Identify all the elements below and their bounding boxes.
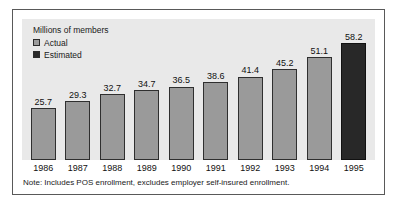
bar-group-1989: 34.7 [134,79,159,160]
bar-1993 [272,69,297,160]
bar-1990 [169,87,194,160]
x-tick-1989: 1989 [130,162,165,174]
bar-value-label: 36.5 [172,75,190,85]
bar-group-1987: 29.3 [65,90,90,160]
x-tick-1992: 1992 [233,162,268,174]
bar-group-1993: 45.2 [272,58,297,160]
bar-value-label: 25.7 [34,97,52,107]
x-axis-labels: 1986198719881989199019911992199319941995 [26,162,371,175]
x-tick-1987: 1987 [61,162,96,174]
bar-value-label: 29.3 [69,90,87,100]
bar-value-label: 58.2 [345,32,363,42]
bar-value-label: 45.2 [276,58,294,68]
chart-note: Note: Includes POS enrollment, excludes … [23,177,289,188]
x-tick-1994: 1994 [302,162,337,174]
x-tick-1986: 1986 [26,162,61,174]
bar-1989 [134,90,159,160]
bar-group-1986: 25.7 [31,97,56,160]
bar-1991 [203,82,228,160]
x-tick-1993: 1993 [268,162,303,174]
bar-1995 [341,43,366,160]
bar-value-label: 41.4 [241,65,259,75]
bar-group-1995: 58.2 [341,32,366,161]
bar-1994 [307,57,332,160]
x-tick-1988: 1988 [95,162,130,174]
x-tick-1990: 1990 [164,162,199,174]
bar-group-1990: 36.5 [169,75,194,160]
x-tick-1995: 1995 [337,162,372,174]
bar-group-1991: 38.6 [203,71,228,160]
bar-1988 [100,94,125,160]
bar-value-label: 38.6 [207,71,225,81]
bar-1992 [238,77,263,160]
bars-container: 25.729.332.734.736.538.641.445.251.158.2 [26,19,371,160]
bar-group-1988: 32.7 [100,83,125,160]
bar-1987 [65,101,90,160]
chart-figure: Millions of members Actual Estimated 25.… [12,9,385,195]
plot-panel: Millions of members Actual Estimated 25.… [22,19,375,160]
bar-value-label: 51.1 [310,46,328,56]
bar-value-label: 34.7 [138,79,156,89]
bar-group-1994: 51.1 [307,46,332,160]
bar-value-label: 32.7 [103,83,121,93]
bar-group-1992: 41.4 [238,65,263,160]
x-tick-1991: 1991 [199,162,234,174]
bar-1986 [31,108,56,160]
